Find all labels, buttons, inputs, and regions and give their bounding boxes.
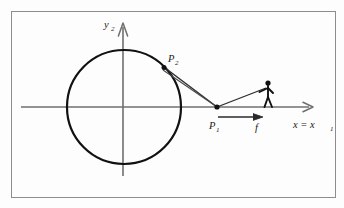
point-marker-p2 bbox=[162, 65, 167, 70]
point-label-p1: P bbox=[208, 120, 216, 131]
point-marker-p1 bbox=[214, 104, 219, 109]
y-axis-label: y bbox=[103, 19, 109, 30]
x-axis-label: x = x bbox=[292, 119, 315, 130]
x-axis-label-subscript: 1 bbox=[330, 125, 334, 133]
geometry-diagram-svg: y 2 x = x 1 P 2 P 1 f bbox=[0, 0, 344, 208]
point-label-p2-subscript: 2 bbox=[175, 59, 179, 67]
point-label-p1-subscript: 1 bbox=[216, 126, 220, 134]
figure-container: y 2 x = x 1 P 2 P 1 f bbox=[0, 0, 344, 208]
point-label-p2: P bbox=[167, 53, 175, 64]
y-axis-label-subscript: 2 bbox=[111, 25, 115, 33]
figure-border bbox=[12, 12, 336, 198]
